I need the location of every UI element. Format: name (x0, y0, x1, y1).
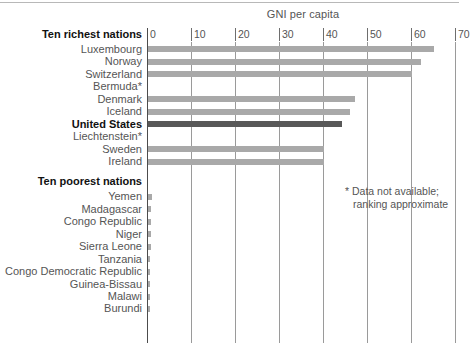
bar-tanzania (148, 256, 150, 262)
bar-switzerland (148, 71, 412, 77)
bar-sweden (148, 146, 324, 152)
row-label-iceland: Iceland (0, 105, 147, 117)
bar-niger (148, 231, 151, 237)
row-label-switzerland: Switzerland (0, 68, 147, 80)
row-label-bermuda: Bermuda* (0, 80, 147, 92)
bar-congo-republic (148, 219, 151, 225)
top-divider (0, 2, 459, 3)
footnote-data-not-available: * Data not available;ranking approximate (345, 185, 448, 211)
bar-guinea-bissau (148, 281, 150, 287)
bar-denmark (148, 96, 355, 102)
row-label-sweden: Sweden (0, 143, 147, 155)
row-label-burundi: Burundi (0, 302, 147, 314)
bar-luxembourg (148, 46, 434, 52)
row-label-liechtenstein: Liechtenstein* (0, 130, 147, 142)
bar-iceland (148, 109, 350, 115)
row-label-madagascar: Madagascar (0, 203, 147, 215)
row-label-luxembourg: Luxembourg (0, 43, 147, 55)
row-label-tanzania: Tanzania (0, 253, 147, 265)
bar-sierra-leone (148, 244, 151, 250)
row-label-united-states: United States (0, 118, 147, 130)
row-label-guinea-bissau: Guinea-Bissau (0, 278, 147, 290)
row-label-congo-republic: Congo Republic (0, 215, 147, 227)
bar-congo-democratic-republic (148, 269, 150, 275)
row-label-niger: Niger (0, 228, 147, 240)
bar-yemen (148, 194, 152, 200)
bar-united-states (148, 121, 342, 127)
row-label-congo-democratic-republic: Congo Democratic Republic (0, 265, 147, 277)
bar-madagascar (148, 206, 151, 212)
row-label-sierra-leone: Sierra Leone (0, 240, 147, 252)
row-label-ireland: Ireland (0, 155, 147, 167)
row-label-norway: Norway (0, 55, 147, 67)
chart-title: GNI per capita (147, 8, 459, 20)
row-label-denmark: Denmark (0, 93, 147, 105)
footnote-line-1: * Data not available; (345, 185, 448, 198)
bar-ireland (148, 159, 324, 165)
bar-burundi (148, 306, 150, 312)
plot-area: 010203040506070 * Data not available;ran… (147, 28, 459, 343)
section-header-ten-richest-nations: Ten richest nations (0, 28, 147, 40)
row-label-yemen: Yemen (0, 190, 147, 202)
bar-norway (148, 59, 421, 65)
section-header-ten-poorest-nations: Ten poorest nations (0, 175, 147, 187)
bar-malawi (148, 294, 150, 300)
row-label-malawi: Malawi (0, 290, 147, 302)
footnote-line-2: ranking approximate (345, 198, 448, 211)
